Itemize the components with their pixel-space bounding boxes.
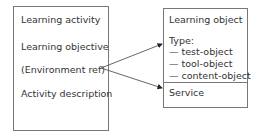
connector-arrows: [0, 0, 260, 137]
arrow-to-learning-object: [101, 44, 162, 68]
arrow-to-service: [101, 68, 162, 88]
